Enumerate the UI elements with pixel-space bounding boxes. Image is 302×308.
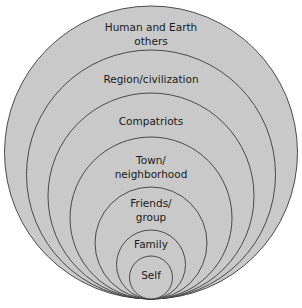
label-friends-line1: Friends/ xyxy=(130,197,172,209)
nested-circles-diagram: Human and Earth others Region/civilizati… xyxy=(0,0,302,308)
label-friends-line2: group xyxy=(136,211,167,223)
label-human-earth-line2: others xyxy=(134,35,167,47)
label-town-line2: neighborhood xyxy=(115,168,188,180)
label-self: Self xyxy=(141,269,161,281)
label-region: Region/civilization xyxy=(103,73,198,85)
label-family: Family xyxy=(134,238,168,250)
label-human-earth-line1: Human and Earth xyxy=(105,21,197,33)
circle-layer xyxy=(5,6,298,299)
label-town-line1: Town/ xyxy=(135,154,166,166)
label-compatriots: Compatriots xyxy=(119,115,183,127)
